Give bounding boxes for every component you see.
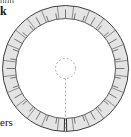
clipped-text-bottom: ers: [0, 117, 13, 128]
figure-container: nnn k ers: [0, 0, 131, 137]
clipped-text-top-letter: k: [0, 5, 7, 17]
ring-drawing-svg: [0, 0, 131, 137]
ring-band: [3, 6, 129, 132]
